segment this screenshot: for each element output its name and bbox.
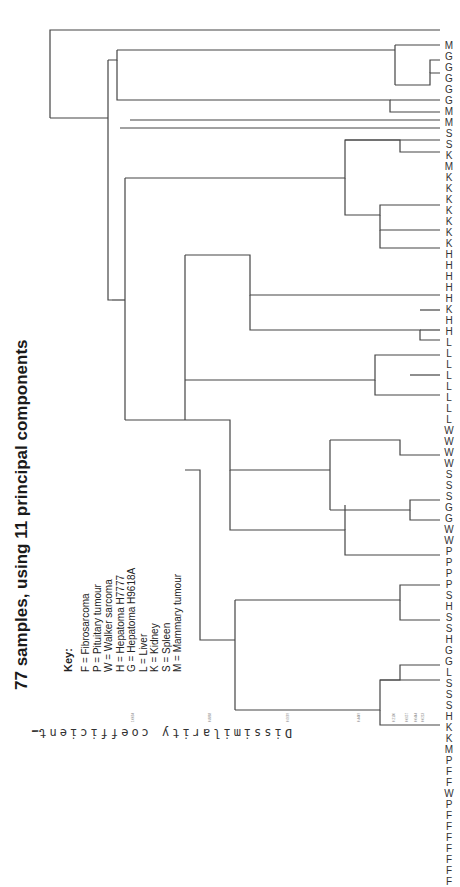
- leaf-label: G: [445, 95, 453, 106]
- leaf-labels: M G G G G G M M S S K M K K K K K K K H …: [442, 40, 456, 735]
- leaf-label: K: [446, 183, 453, 194]
- leaf-label: M: [445, 117, 453, 128]
- leaf-label: S: [446, 480, 453, 491]
- leaf-label: K: [446, 733, 453, 744]
- leaf-label: H: [445, 711, 452, 722]
- leaf-label: S: [446, 612, 453, 623]
- leaf-label: F: [446, 810, 452, 821]
- leaf-label: L: [446, 381, 452, 392]
- leaf-label: K: [446, 172, 453, 183]
- leaf-label: K: [446, 304, 453, 315]
- leaf-label: H: [445, 271, 452, 282]
- leaf-label: H: [445, 282, 452, 293]
- leaf-label: S: [446, 590, 453, 601]
- leaf-label: H: [445, 260, 452, 271]
- leaf-label: W: [444, 447, 453, 458]
- leaf-label: F: [446, 766, 452, 777]
- leaf-label: H: [445, 634, 452, 645]
- leaf-label: F: [446, 843, 452, 854]
- leaf-label: G: [445, 62, 453, 73]
- leaf-label: M: [445, 106, 453, 117]
- leaf-label: L: [446, 348, 452, 359]
- leaf-label: H: [445, 315, 452, 326]
- leaf-label: W: [444, 524, 453, 535]
- leaf-label: G: [445, 84, 453, 95]
- leaf-label: P: [446, 568, 453, 579]
- leaf-label: G: [445, 51, 453, 62]
- leaf-label: L: [446, 337, 452, 348]
- leaf-label: L: [446, 370, 452, 381]
- leaf-label: P: [446, 755, 453, 766]
- leaf-label: K: [446, 205, 453, 216]
- leaf-label: P: [446, 546, 453, 557]
- leaf-label: P: [446, 557, 453, 568]
- leaf-label: S: [446, 700, 453, 711]
- leaf-label: H: [445, 326, 452, 337]
- leaf-label: K: [446, 238, 453, 249]
- leaf-label: K: [446, 194, 453, 205]
- leaf-label: G: [445, 73, 453, 84]
- leaf-label: F: [446, 821, 452, 832]
- leaf-label: F: [446, 876, 452, 887]
- leaf-label: W: [444, 425, 453, 436]
- leaf-label: G: [445, 502, 453, 513]
- leaf-label: H: [445, 293, 452, 304]
- leaf-label: F: [446, 854, 452, 865]
- leaf-label: W: [444, 458, 453, 469]
- leaf-label: W: [444, 535, 453, 546]
- leaf-label: F: [446, 832, 452, 843]
- leaf-label: K: [446, 216, 453, 227]
- leaf-label: S: [446, 678, 453, 689]
- leaf-label: M: [445, 744, 453, 755]
- leaf-label: S: [446, 491, 453, 502]
- leaf-label: P: [446, 579, 453, 590]
- leaf-label: L: [446, 414, 452, 425]
- leaf-label: L: [446, 667, 452, 678]
- leaf-label: M: [445, 161, 453, 172]
- leaf-label: P: [446, 799, 453, 810]
- leaf-label: H: [445, 601, 452, 612]
- leaf-label: S: [446, 139, 453, 150]
- leaf-label: G: [445, 656, 453, 667]
- leaf-label: S: [446, 689, 453, 700]
- leaf-label: L: [446, 392, 452, 403]
- leaf-label: G: [445, 645, 453, 656]
- leaf-label: S: [446, 128, 453, 139]
- leaf-label: W: [444, 788, 453, 799]
- leaf-label: K: [446, 227, 453, 238]
- leaf-label: L: [446, 403, 452, 414]
- leaf-label: K: [446, 722, 453, 733]
- leaf-label: L: [446, 359, 452, 370]
- leaf-label: S: [446, 623, 453, 634]
- leaf-label: F: [446, 777, 452, 788]
- leaf-label: G: [445, 513, 453, 524]
- leaf-label: F: [446, 865, 452, 876]
- leaf-label: W: [444, 436, 453, 447]
- leaf-label: M: [445, 40, 453, 51]
- leaf-label: S: [446, 469, 453, 480]
- leaf-label: K: [446, 150, 453, 161]
- leaf-label: H: [445, 249, 452, 260]
